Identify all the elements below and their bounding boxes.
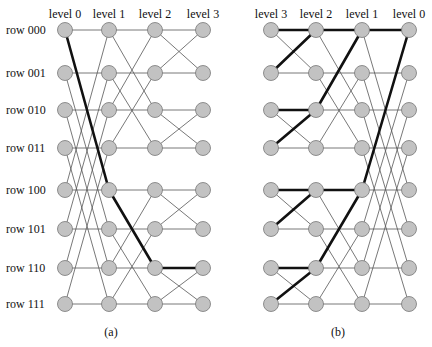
switch-node — [355, 141, 370, 156]
switch-node — [264, 23, 279, 38]
switch-node — [102, 297, 117, 312]
row-label: row 101 — [6, 222, 46, 236]
switch-node — [309, 183, 324, 198]
switch-node — [402, 222, 417, 237]
level-label: level 2 — [139, 7, 171, 21]
switch-node — [148, 183, 163, 198]
switch-node — [148, 261, 163, 276]
level-label: level 3 — [187, 7, 219, 21]
level-label: level 1 — [93, 7, 125, 21]
row-label: row 100 — [6, 183, 46, 197]
switch-node — [264, 66, 279, 81]
switch-node — [196, 183, 211, 198]
switch-node — [355, 222, 370, 237]
switch-node — [402, 66, 417, 81]
switch-node — [264, 261, 279, 276]
switch-node — [196, 261, 211, 276]
level-label: level 3 — [255, 7, 287, 21]
switch-node — [309, 222, 324, 237]
switch-node — [148, 66, 163, 81]
switch-node — [355, 103, 370, 118]
switch-node — [196, 297, 211, 312]
row-label: row 010 — [6, 103, 46, 117]
switch-node — [309, 103, 324, 118]
switch-node — [402, 297, 417, 312]
switch-node — [102, 23, 117, 38]
switch-node — [102, 183, 117, 198]
switch-node — [264, 222, 279, 237]
switch-node — [58, 183, 73, 198]
switch-node — [402, 23, 417, 38]
row-label: row 000 — [6, 23, 46, 37]
switch-node — [355, 66, 370, 81]
switch-node — [264, 183, 279, 198]
switch-node — [402, 261, 417, 276]
switch-node — [402, 141, 417, 156]
switch-node — [309, 141, 324, 156]
switch-node — [102, 103, 117, 118]
row-label: row 110 — [6, 261, 45, 275]
switch-node — [309, 66, 324, 81]
row-label: row 111 — [6, 297, 45, 311]
switch-node — [58, 261, 73, 276]
switch-node — [196, 23, 211, 38]
switch-node — [58, 297, 73, 312]
row-label: row 001 — [6, 66, 46, 80]
switch-node — [58, 103, 73, 118]
level-label: level 0 — [49, 7, 81, 21]
switch-node — [309, 261, 324, 276]
switch-node — [148, 297, 163, 312]
switch-node — [196, 103, 211, 118]
switch-node — [355, 261, 370, 276]
switch-node — [102, 261, 117, 276]
row-label: row 011 — [6, 141, 45, 155]
switch-node — [355, 23, 370, 38]
subfigure-caption: (a) — [104, 325, 117, 339]
subfigure-caption: (b) — [331, 325, 345, 339]
switch-node — [196, 222, 211, 237]
switch-node — [102, 222, 117, 237]
switch-node — [309, 297, 324, 312]
level-label: level 1 — [346, 7, 378, 21]
switch-node — [148, 222, 163, 237]
switch-node — [58, 141, 73, 156]
butterfly-network-figure: level 0level 1level 2level 3row 000row 0… — [0, 0, 432, 347]
switch-node — [402, 103, 417, 118]
level-label: level 0 — [393, 7, 425, 21]
switch-node — [148, 23, 163, 38]
nodes-layer — [58, 23, 417, 312]
switch-node — [148, 141, 163, 156]
switch-node — [355, 183, 370, 198]
switch-node — [355, 297, 370, 312]
switch-node — [264, 141, 279, 156]
switch-node — [264, 103, 279, 118]
switch-node — [148, 103, 163, 118]
switch-node — [58, 66, 73, 81]
switch-node — [264, 297, 279, 312]
switch-node — [58, 222, 73, 237]
switch-node — [309, 23, 324, 38]
switch-node — [102, 141, 117, 156]
switch-node — [196, 141, 211, 156]
level-label: level 2 — [300, 7, 332, 21]
switch-node — [196, 66, 211, 81]
switch-node — [402, 183, 417, 198]
switch-node — [58, 23, 73, 38]
switch-node — [102, 66, 117, 81]
